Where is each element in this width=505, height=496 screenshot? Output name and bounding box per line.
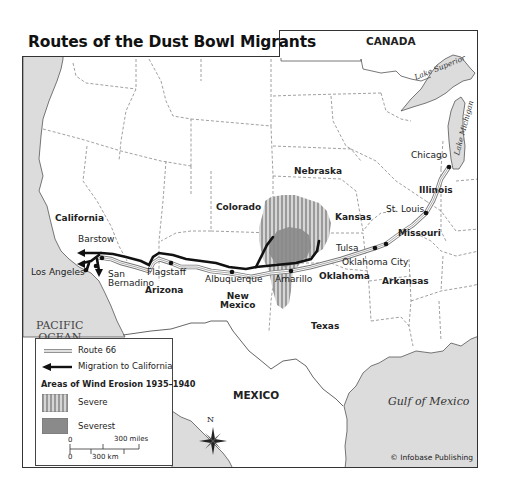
pacific-ocean bbox=[23, 31, 125, 337]
label-san-bernadino: San Bernadino bbox=[108, 270, 154, 289]
label-amarillo: Amarillo bbox=[275, 275, 312, 284]
legend-severe-label: Severe bbox=[78, 397, 107, 407]
legend: Route 66 Migration to California Areas o… bbox=[35, 338, 173, 466]
scale-300-km: 300 km bbox=[92, 453, 118, 461]
label-california: California bbox=[55, 214, 104, 223]
scale-zero-km: 0 bbox=[68, 453, 72, 461]
legend-erosion-heading: Areas of Wind Erosion 1935–1940 bbox=[41, 379, 196, 389]
label-texas: Texas bbox=[311, 322, 339, 331]
label-new-mexico: New Mexico bbox=[220, 292, 255, 311]
label-gulf-of-mexico: Gulf of Mexico bbox=[388, 396, 469, 408]
legend-severest-label: Severest bbox=[78, 421, 115, 431]
scale-zero-miles: 0 bbox=[68, 436, 72, 444]
label-los-angeles: Los Angeles bbox=[31, 268, 85, 277]
legend-migration-swatch bbox=[42, 362, 74, 372]
label-san-bernadino-line2: Bernadino bbox=[108, 279, 154, 288]
label-colorado: Colorado bbox=[216, 203, 261, 212]
label-arkansas: Arkansas bbox=[382, 277, 429, 286]
compass-north-label: N bbox=[207, 416, 214, 424]
label-tulsa: Tulsa bbox=[336, 244, 359, 253]
label-mexico: MEXICO bbox=[233, 390, 279, 401]
publisher-credit: © Infobase Publishing bbox=[390, 453, 473, 462]
label-pacific-line1: PACIFIC bbox=[36, 320, 84, 332]
label-albuquerque: Albuquerque bbox=[205, 275, 263, 284]
legend-migration-label: Migration to California bbox=[78, 361, 172, 371]
label-barstow: Barstow bbox=[78, 235, 114, 244]
legend-severest-swatch bbox=[42, 418, 68, 434]
label-canada: CANADA bbox=[366, 36, 416, 47]
legend-severe-swatch bbox=[42, 394, 68, 412]
label-illinois: Illinois bbox=[419, 186, 453, 195]
scale-300-miles: 300 miles bbox=[114, 435, 148, 443]
map-title: Routes of the Dust Bowl Migrants bbox=[28, 33, 316, 51]
label-nebraska: Nebraska bbox=[294, 167, 342, 176]
label-oklahoma-city: Oklahoma City bbox=[342, 258, 408, 267]
pacific-south bbox=[172, 411, 233, 468]
map-title-box: Routes of the Dust Bowl Migrants bbox=[22, 30, 280, 57]
legend-route66-label: Route 66 bbox=[78, 345, 116, 355]
label-missouri: Missouri bbox=[398, 229, 441, 238]
label-st-louis: St. Louis bbox=[386, 205, 424, 214]
label-new-mexico-line2: Mexico bbox=[220, 301, 255, 310]
label-chicago: Chicago bbox=[411, 151, 447, 160]
legend-route66-swatch bbox=[44, 347, 72, 355]
canada-border bbox=[281, 58, 431, 81]
label-kansas: Kansas bbox=[335, 213, 371, 222]
label-oklahoma: Oklahoma bbox=[319, 272, 370, 281]
